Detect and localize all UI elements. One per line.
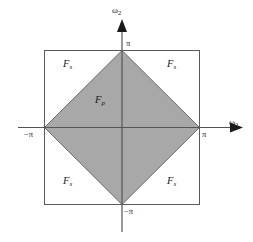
horizontal-axis-label: ω2 [229,118,238,128]
stopband-label-top-left: Fs [63,59,72,71]
stopband-label-bottom-right: Fs [167,176,176,188]
stopband-subscript: s [173,180,176,188]
tick-label-bottom-neg-pi: −π [124,207,133,216]
vertical-axis-subscript: 2 [118,9,121,16]
frequency-region-figure: ω2 ω2 π π −π −π Fp Fs Fs Fs Fs [0,0,253,242]
horizontal-axis-subscript: 2 [235,121,238,128]
stopband-subscript: s [69,63,72,71]
passband-subscript: p [101,99,105,107]
vertical-axis-label: ω2 [112,6,121,16]
stopband-subscript: s [173,63,176,71]
stopband-label-bottom-left: Fs [63,176,72,188]
stopband-subscript: s [69,180,72,188]
tick-label-top-pi: π [126,39,130,48]
stopband-label-top-right: Fs [167,59,176,71]
passband-label: Fp [95,95,105,107]
tick-label-left-neg-pi: −π [24,130,33,139]
tick-label-right-pi: π [202,130,206,139]
